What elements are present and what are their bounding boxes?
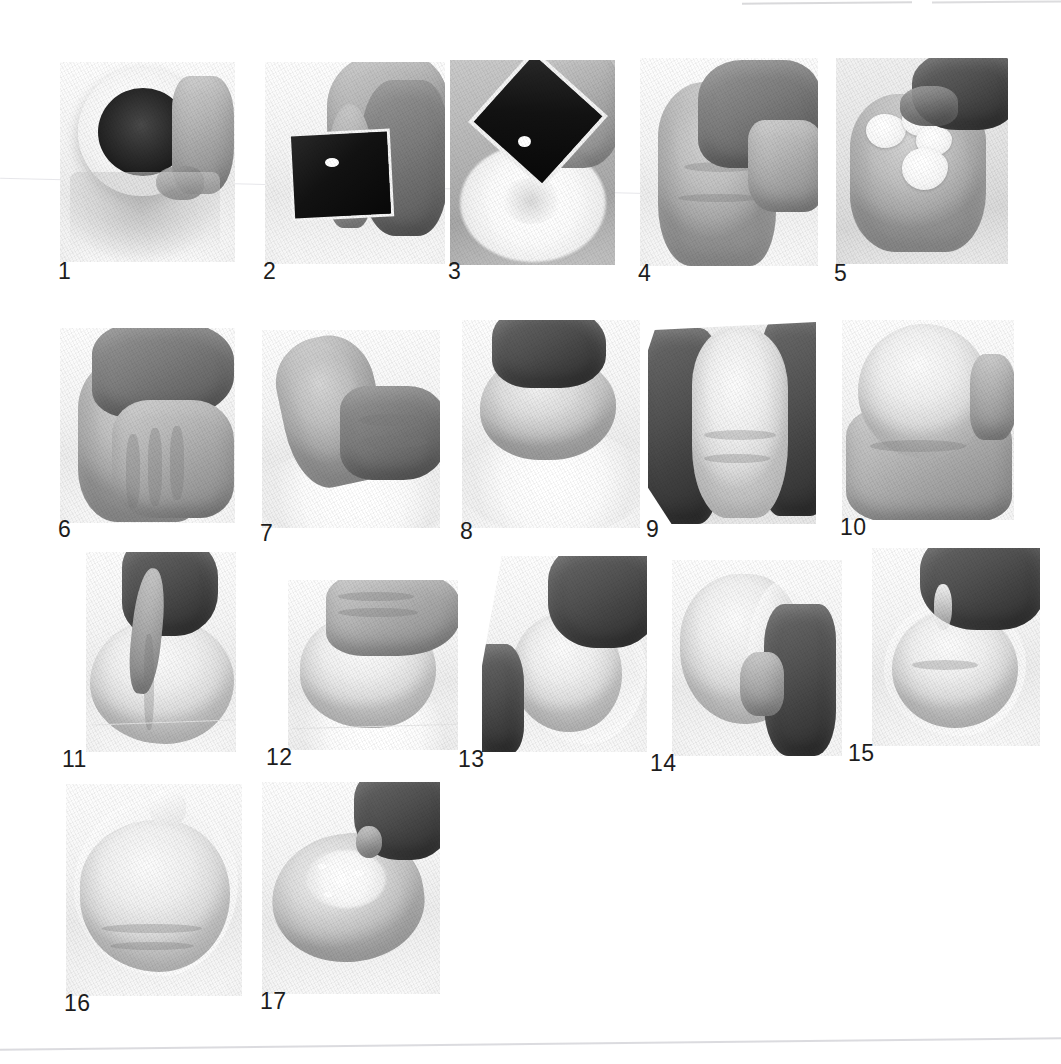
step-label-4: 4 [638,262,651,285]
step-cell-4: 4 [640,58,830,278]
scanned-recipe-page: 1 2 3 [0,0,1061,1064]
step-label-15: 15 [848,742,875,765]
step-photo-9 [648,322,816,524]
step-cell-5: 5 [836,58,1026,278]
step-label-7: 7 [260,522,273,545]
step-label-5: 5 [834,262,847,285]
step-cell-17: 17 [262,782,452,1010]
step-cell-14: 14 [672,560,862,772]
step-label-16: 16 [64,992,91,1015]
step-photo-6 [60,328,235,523]
step-cell-16: 16 [66,784,256,1009]
step-photo-3 [450,60,615,265]
step-cell-6: 6 [60,328,250,543]
step-label-12: 12 [266,746,293,769]
bottom-page-edge [0,1037,1061,1050]
step-label-11: 11 [62,748,87,771]
step-cell-10: 10 [842,320,1037,544]
step-photo-5 [836,58,1008,264]
step-label-6: 6 [58,518,71,541]
top-edge-mark-right [932,1,1061,4]
step-label-2: 2 [263,260,276,283]
step-label-3: 3 [448,260,461,283]
step-photo-17 [262,782,440,994]
step-cell-13: 13 [482,556,672,772]
step-cell-11: 11 [86,552,276,772]
step-label-9: 9 [646,518,659,541]
step-cell-1: 1 [60,62,245,277]
step-cell-2: 2 [265,62,450,277]
step-photo-4 [640,58,818,266]
step-photo-12 [288,580,458,750]
step-cell-12: 12 [288,580,478,772]
step-label-13: 13 [458,748,485,771]
step-label-8: 8 [460,520,473,543]
step-photo-16 [66,784,242,996]
step-photo-13 [482,556,647,752]
step-photo-1 [60,62,235,262]
step-photo-11 [86,552,236,752]
step-cell-7: 7 [262,330,452,545]
step-cell-3: 3 [450,60,635,275]
step-cell-15: 15 [872,548,1061,772]
step-photo-10 [842,320,1014,520]
step-label-14: 14 [650,752,677,775]
step-photo-7 [262,330,440,528]
step-photo-2 [265,62,445,264]
top-edge-mark-left [742,1,912,4]
step-cell-9: 9 [648,322,838,544]
step-label-1: 1 [58,260,71,283]
step-cell-8: 8 [462,320,652,545]
step-photo-15 [872,548,1040,746]
step-photo-14 [672,560,842,756]
step-label-10: 10 [840,516,867,539]
step-label-17: 17 [260,990,287,1013]
step-photo-8 [462,320,640,528]
